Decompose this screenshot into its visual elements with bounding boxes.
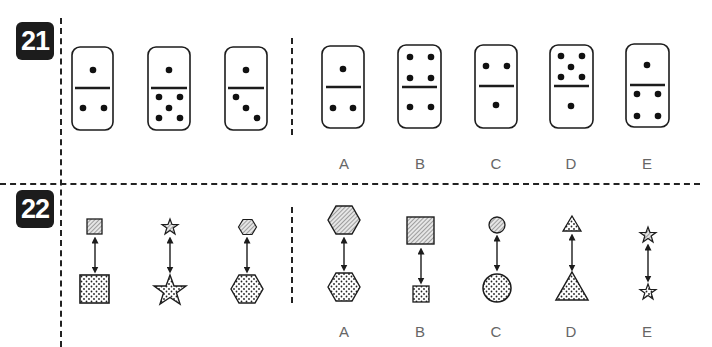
q22-option-d-pair[interactable] — [556, 216, 588, 300]
q22-option-a-pair[interactable] — [328, 206, 360, 301]
small-hatched-square-icon — [87, 219, 102, 234]
q21-option-b-domino[interactable] — [398, 45, 441, 128]
large-dotted-hexagon-icon — [328, 273, 360, 301]
q22-option-c-pair[interactable] — [483, 217, 511, 302]
large-hatched-square-icon — [407, 217, 434, 244]
large-dotted-hexagon-icon — [231, 275, 263, 303]
small-dotted-triangle-icon — [563, 216, 581, 231]
small-hatched-hexagon-icon — [239, 220, 257, 235]
large-dotted-square-icon — [80, 275, 109, 303]
small-dotted-star-icon — [640, 284, 656, 299]
q21-option-e-domino[interactable] — [626, 44, 669, 127]
q22-given-pair-hexagon — [231, 220, 263, 304]
small-hatched-star-icon — [162, 219, 178, 234]
q21-given-domino-1 — [72, 47, 113, 130]
q22-given-pair-star — [154, 219, 186, 304]
q21-given-domino-2 — [148, 47, 190, 130]
small-hatched-star-icon — [640, 227, 656, 242]
large-dotted-circle-icon — [483, 274, 511, 302]
large-dotted-star-icon — [154, 275, 186, 304]
q22-option-b-pair[interactable] — [407, 217, 434, 302]
q21-option-d-domino[interactable] — [550, 45, 593, 128]
small-hatched-circle-icon — [489, 217, 505, 233]
q22-given-pair-square — [80, 219, 109, 303]
q21-given-domino-3 — [225, 47, 267, 130]
q21-option-a-domino[interactable] — [322, 46, 364, 128]
q21-option-c-domino[interactable] — [475, 45, 517, 128]
small-dotted-square-icon — [413, 286, 429, 302]
large-dotted-triangle-icon — [556, 272, 588, 300]
q22-option-e-pair[interactable] — [640, 227, 656, 299]
large-hatched-hexagon-icon — [328, 206, 360, 234]
figures-canvas — [0, 0, 712, 347]
